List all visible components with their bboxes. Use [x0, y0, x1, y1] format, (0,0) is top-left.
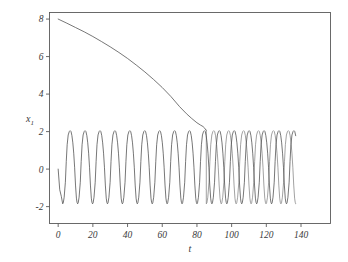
x-axis-ticks — [58, 224, 301, 228]
x-tick-label: 80 — [192, 230, 202, 240]
x-axis-label: t — [189, 243, 192, 254]
y-tick-label: 2 — [39, 127, 44, 137]
y-axis-label-subscript: 1 — [30, 119, 34, 127]
x-tick-label: 60 — [157, 230, 167, 240]
x-tick-label: 20 — [88, 230, 98, 240]
x-tick-label: 40 — [123, 230, 133, 240]
figure-container: -202468 020406080100120140 x1 t — [0, 0, 348, 262]
y-axis-label: x1 — [25, 113, 34, 127]
oscillation-secondary-trace — [206, 130, 296, 204]
decay-branch-trace — [58, 19, 206, 130]
oscillation-trace — [58, 131, 296, 204]
y-tick-label: 6 — [39, 52, 44, 62]
y-axis-tick-labels: -202468 — [36, 14, 44, 212]
x-tick-label: 100 — [225, 230, 240, 240]
y-tick-label: 0 — [39, 165, 44, 175]
y-tick-label: 8 — [39, 14, 44, 24]
x-tick-label: 0 — [56, 230, 61, 240]
y-tick-label: 4 — [39, 89, 44, 99]
y-axis-ticks — [46, 19, 50, 207]
time-series-chart: -202468 020406080100120140 x1 t — [0, 0, 348, 262]
y-tick-label: -2 — [36, 202, 44, 212]
x-tick-label: 120 — [259, 230, 274, 240]
x-tick-label: 140 — [294, 230, 309, 240]
x-axis-tick-labels: 020406080100120140 — [56, 230, 309, 240]
